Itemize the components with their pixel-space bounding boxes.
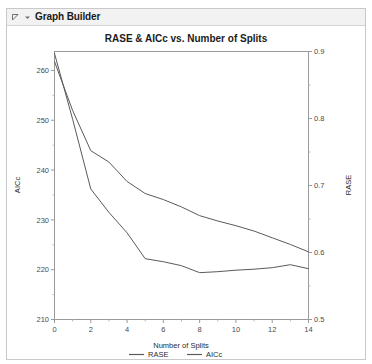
graph-builder-panel: Graph Builder RASE & AICc vs. Number of …: [6, 8, 366, 360]
y-axis-left-tick-label: 240: [36, 166, 49, 175]
x-axis-tick-label: 2: [89, 325, 93, 334]
series-line-aicc: [55, 53, 309, 272]
x-axis-tick-label: 8: [198, 325, 202, 334]
panel-title: Graph Builder: [35, 12, 100, 22]
panel-titlebar[interactable]: Graph Builder: [7, 9, 365, 26]
x-axis-tick-label: 6: [161, 325, 165, 334]
chevron-down-icon[interactable]: [23, 13, 32, 22]
x-axis-tick-label: 4: [125, 325, 129, 334]
series-line-rase: [55, 62, 309, 252]
plot-frame: [55, 52, 309, 320]
y-axis-left-title: AICc: [13, 177, 22, 194]
y-axis-right-title: RASE: [344, 175, 353, 195]
y-axis-left: 210220230240250260: [36, 66, 54, 324]
y-axis-left-tick-label: 250: [36, 116, 49, 125]
y-axis-right-tick-label: 0.5: [314, 315, 324, 324]
y-axis-right-tick-label: 0.8: [314, 114, 324, 123]
y-axis-left-tick-label: 210: [36, 315, 49, 324]
chart-container: RASE & AICc vs. Number of Splits 2102202…: [7, 26, 365, 359]
x-axis-tick-label: 0: [52, 325, 56, 334]
y-axis-right: 0.50.60.70.80.9: [309, 47, 325, 324]
x-axis-tick-label: 12: [268, 325, 276, 334]
x-axis-tick-label: 10: [232, 325, 240, 334]
y-axis-right-tick-label: 0.9: [314, 47, 324, 56]
y-axis-right-tick-label: 0.6: [314, 248, 324, 257]
x-axis: 02468101214: [52, 320, 312, 334]
triangle-collapse-icon[interactable]: [11, 13, 20, 22]
y-axis-left-tick-label: 260: [36, 66, 49, 75]
y-axis-left-tick-label: 220: [36, 265, 49, 274]
y-axis-right-tick-label: 0.7: [314, 181, 324, 190]
app-root: Graph Builder RASE & AICc vs. Number of …: [0, 0, 372, 364]
chart-canvas: 210220230240250260 0.50.60.70.80.9 02468…: [7, 26, 365, 359]
y-axis-left-tick-label: 230: [36, 216, 49, 225]
x-axis-title: Number of Splits: [153, 341, 209, 350]
x-axis-tick-label: 14: [304, 325, 312, 334]
data-series-group: [55, 53, 309, 272]
